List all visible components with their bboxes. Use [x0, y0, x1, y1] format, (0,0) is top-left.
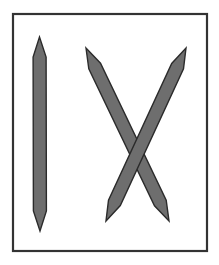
sticks-group: [33, 37, 186, 231]
diagonal-stick-descending: [86, 48, 169, 221]
vertical-stick: [33, 37, 46, 231]
diagram-canvas: [0, 0, 219, 265]
diagonal-stick-ascending: [106, 48, 186, 221]
